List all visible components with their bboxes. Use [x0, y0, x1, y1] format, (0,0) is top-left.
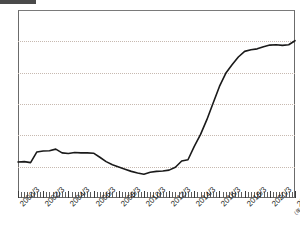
header-tag-block [0, 0, 36, 4]
data-series-line [18, 10, 295, 198]
chart-screenshot: 0102030405060 2000/32002/32004/32006/320… [0, 0, 300, 234]
x-tick [295, 191, 296, 198]
line-chart-figure: 0102030405060 2000/32002/32004/32006/320… [0, 6, 300, 216]
x-axis-labels: 2000/32002/32004/32006/32008/32010/32012… [18, 202, 295, 234]
plot-area: 0102030405060 [18, 10, 295, 198]
